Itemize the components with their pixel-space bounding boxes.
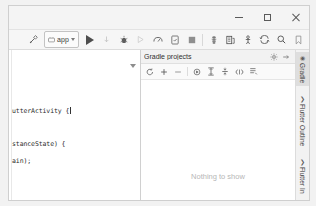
run-button[interactable] [82, 31, 97, 49]
debug-icon [119, 35, 129, 45]
task-list-icon[interactable] [246, 65, 260, 79]
gradle-panel-header: Gradle projects [141, 50, 295, 64]
stop-icon [188, 36, 196, 44]
sync-project-button[interactable] [257, 31, 272, 49]
debug-button[interactable] [116, 31, 131, 49]
chevron-down-icon[interactable] [130, 64, 136, 68]
title-bar [9, 6, 309, 30]
attach-debugger-icon [102, 35, 111, 44]
profiler-icon [153, 35, 163, 44]
sync-project-icon [259, 35, 270, 44]
hide-panel-icon[interactable] [280, 51, 292, 63]
minimize-icon [235, 17, 243, 18]
chevron-right-icon: ❯ [300, 159, 305, 165]
avd-manager-button[interactable] [206, 31, 221, 49]
chevron-right-icon: ❯ [300, 96, 305, 102]
ide-window: app [0, 0, 316, 206]
attach-debugger-button[interactable] [99, 31, 114, 49]
gradle-icon: ◉ [300, 55, 305, 61]
chevron-down-icon [71, 38, 75, 41]
close-icon [291, 13, 300, 22]
gear-icon[interactable] [268, 51, 280, 63]
code-line: stanceState) { [12, 140, 65, 148]
search-everywhere-button[interactable] [274, 31, 289, 49]
refresh-icon[interactable] [143, 65, 157, 79]
add-icon[interactable] [157, 65, 171, 79]
gradle-panel-body[interactable]: Nothing to show [141, 80, 295, 200]
device-file-explorer-button[interactable] [240, 31, 255, 49]
run-coverage-icon [136, 35, 145, 44]
window-frame: app [8, 5, 310, 201]
code-editor[interactable]: utterActivity { stanceState) { ain); [9, 50, 141, 200]
sdk-manager-button[interactable] [223, 31, 238, 49]
sidebar-item-flutter-inspector[interactable]: ❯ Flutter In [296, 156, 309, 197]
run-icon [86, 35, 94, 45]
expand-all-icon[interactable] [204, 65, 218, 79]
remove-icon[interactable] [171, 65, 185, 79]
avd-manager-icon [210, 35, 218, 45]
sidebar-item-gradle[interactable]: ◉ Gradle [296, 52, 309, 86]
toolbar-divider [187, 67, 188, 76]
right-tool-strip: ◉ Gradle ❯ Flutter Outline ❯ Flutter In [295, 50, 309, 200]
execute-task-icon[interactable] [190, 65, 204, 79]
collapse-all-icon[interactable] [218, 65, 232, 79]
stop-button[interactable] [184, 31, 199, 49]
sidebar-item-flutter-outline[interactable]: ❯ Flutter Outline [296, 93, 309, 149]
bookmark-icon [295, 35, 302, 45]
run-configuration-label: app [57, 36, 69, 43]
sidebar-item-label: Flutter In [299, 167, 306, 194]
maximize-button[interactable] [253, 6, 281, 29]
bookmark-button[interactable] [291, 31, 306, 49]
code-line-text: utterActivity { [12, 107, 69, 115]
sidebar-item-label: Flutter Outline [299, 104, 306, 146]
empty-state-message: Nothing to show [141, 172, 295, 181]
close-button[interactable] [281, 6, 309, 29]
toggle-offline-icon[interactable] [232, 65, 246, 79]
code-line: utterActivity { [12, 107, 71, 115]
gradle-panel-title: Gradle projects [144, 53, 268, 60]
toolbar-divider [202, 34, 203, 46]
text-caret [70, 107, 71, 114]
gradle-tool-window: Gradle projects [141, 50, 295, 200]
build-hammer-icon[interactable] [26, 31, 41, 49]
profiler-button[interactable] [150, 31, 165, 49]
main-toolbar: app [9, 30, 309, 50]
gradle-panel-toolbar [141, 64, 295, 80]
sdk-manager-icon [226, 35, 235, 45]
work-area: utterActivity { stanceState) { ain); Gra… [9, 50, 309, 200]
sidebar-item-label: Gradle [299, 63, 306, 83]
maximize-icon [264, 14, 271, 21]
run-configuration-selector[interactable]: app [44, 31, 79, 48]
android-app-icon [48, 37, 55, 43]
device-file-explorer-icon [244, 35, 252, 45]
code-line: ain); [12, 157, 31, 165]
minimize-button[interactable] [225, 6, 253, 29]
apply-changes-button[interactable] [167, 31, 182, 49]
search-icon [277, 35, 286, 44]
editor-gutter [9, 50, 12, 200]
run-coverage-button[interactable] [133, 31, 148, 49]
apply-changes-icon [171, 35, 179, 45]
